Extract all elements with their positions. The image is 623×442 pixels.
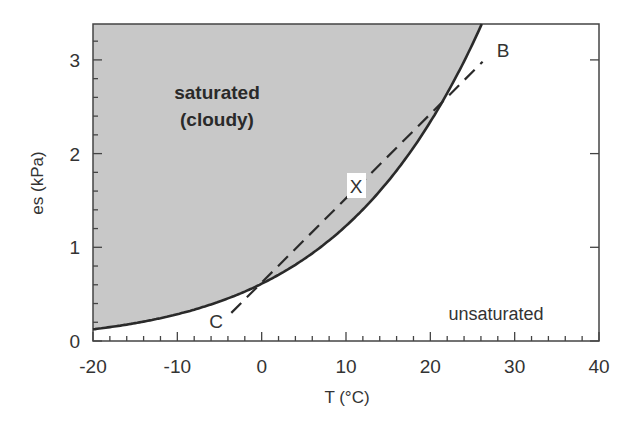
point-x-label: X bbox=[350, 176, 363, 197]
point-b-label: B bbox=[497, 40, 510, 61]
x-axis-title: T (°C) bbox=[324, 388, 369, 407]
y-axis-title: es (kPa) bbox=[28, 151, 47, 214]
saturated-label: saturated bbox=[174, 82, 260, 103]
x-tick-label: 10 bbox=[335, 356, 356, 377]
x-tick-label: 20 bbox=[420, 356, 441, 377]
y-tick-label: 0 bbox=[69, 331, 80, 352]
x-tick-label: 40 bbox=[588, 356, 609, 377]
saturated-region bbox=[93, 24, 482, 329]
x-tick-labels: -20-10010203040 bbox=[79, 356, 609, 377]
y-tick-labels: 0123 bbox=[69, 50, 80, 352]
y-tick-label: 3 bbox=[69, 50, 80, 71]
x-tick-label: -20 bbox=[79, 356, 106, 377]
x-tick-label: 0 bbox=[256, 356, 267, 377]
y-tick-label: 1 bbox=[69, 237, 80, 258]
x-tick-label: 30 bbox=[504, 356, 525, 377]
cloudy-label: (cloudy) bbox=[180, 109, 254, 130]
chart: -20-10010203040 0123 T (°C) es (kPa) sat… bbox=[0, 0, 623, 442]
y-tick-label: 2 bbox=[69, 144, 80, 165]
unsaturated-label: unsaturated bbox=[448, 304, 543, 324]
x-tick-label: -10 bbox=[164, 356, 191, 377]
point-c-label: C bbox=[209, 311, 223, 332]
